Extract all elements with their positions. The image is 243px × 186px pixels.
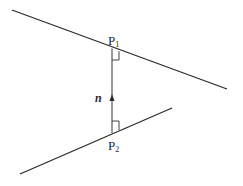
normal-vector-label: n — [95, 91, 102, 105]
point-label-p1: P1 — [108, 33, 119, 49]
diagram-canvas: P1 P2 n — [0, 0, 243, 186]
right-angle-marker-p1 — [112, 51, 119, 60]
normal-vector-arrow-icon — [110, 94, 115, 101]
lower-line — [20, 108, 172, 174]
upper-line — [12, 10, 227, 89]
right-angle-marker-p2 — [112, 121, 119, 130]
point-label-p2: P2 — [108, 138, 119, 154]
